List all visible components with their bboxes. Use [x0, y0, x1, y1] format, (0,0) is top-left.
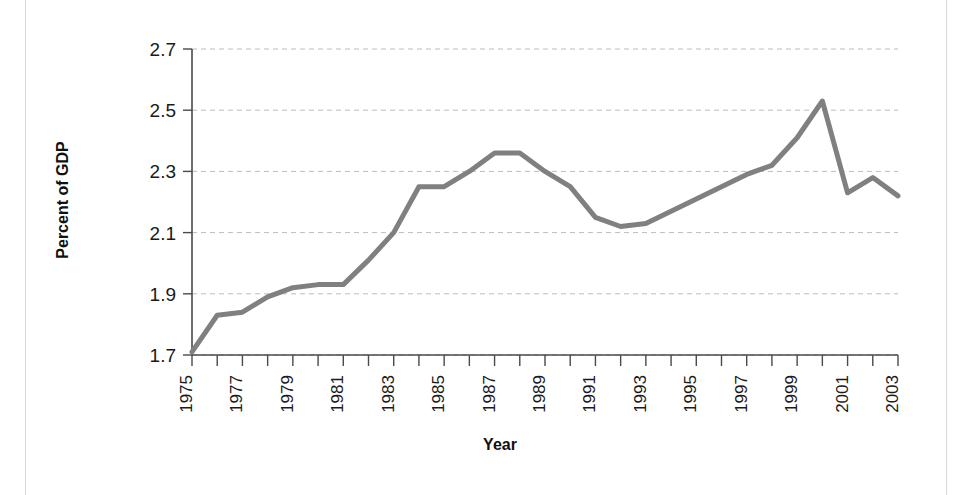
x-tick-label: 1989 [530, 375, 549, 413]
data-series-line [192, 101, 898, 352]
y-axis-ticks [183, 49, 192, 355]
x-tick-label: 1997 [732, 375, 751, 413]
y-tick-label: 1.7 [150, 345, 176, 366]
x-tick-label: 1981 [328, 375, 347, 413]
x-tick-label: 1991 [580, 375, 599, 413]
chart-figure: 1.71.92.12.32.52.7 197519771979198119831… [0, 0, 966, 495]
x-tick-label: 2001 [833, 375, 852, 413]
x-axis-tick-labels: 1975197719791981198319851987198919911993… [177, 375, 902, 413]
y-axis-title: Percent of GDP [54, 141, 71, 259]
x-tick-label: 1979 [278, 375, 297, 413]
y-tick-label: 1.9 [150, 284, 176, 305]
gridlines [192, 49, 898, 355]
x-axis-title: Year [483, 436, 517, 453]
y-axis-tick-labels: 1.71.92.12.32.52.7 [150, 39, 176, 366]
x-tick-label: 1993 [631, 375, 650, 413]
x-tick-label: 1985 [429, 375, 448, 413]
x-tick-label: 1977 [227, 375, 246, 413]
y-tick-label: 2.7 [150, 39, 176, 60]
x-tick-label: 1987 [480, 375, 499, 413]
x-tick-label: 1999 [782, 375, 801, 413]
x-axis-ticks [192, 355, 898, 366]
y-tick-label: 2.1 [150, 223, 176, 244]
x-tick-label: 1995 [681, 375, 700, 413]
y-tick-label: 2.3 [150, 161, 176, 182]
y-tick-label: 2.5 [150, 100, 176, 121]
x-tick-label: 2003 [883, 375, 902, 413]
line-chart: 1.71.92.12.32.52.7 197519771979198119831… [0, 0, 966, 495]
x-tick-label: 1975 [177, 375, 196, 413]
x-tick-label: 1983 [379, 375, 398, 413]
